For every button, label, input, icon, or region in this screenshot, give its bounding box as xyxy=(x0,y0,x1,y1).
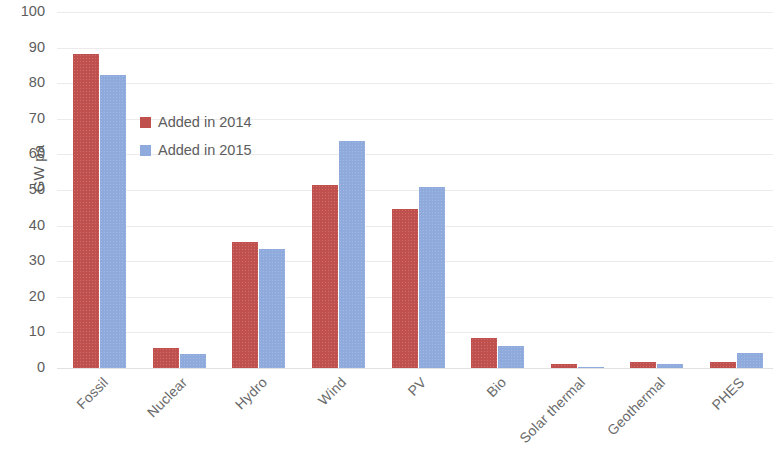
bar-group xyxy=(710,12,763,368)
bar xyxy=(419,187,445,368)
x-tick-label: PHES xyxy=(709,374,748,413)
bar-group xyxy=(392,12,445,368)
legend-item: Added in 2014 xyxy=(140,110,252,134)
bar xyxy=(232,242,258,368)
bar-group xyxy=(312,12,365,368)
x-tick-label: Hydro xyxy=(232,374,270,412)
bar-group xyxy=(551,12,604,368)
bar xyxy=(180,354,206,368)
y-tick-label: 40 xyxy=(0,217,45,233)
bar xyxy=(551,364,577,368)
y-tick-label: 100 xyxy=(0,3,45,19)
bar xyxy=(578,367,604,368)
bar xyxy=(737,353,763,368)
y-tick-label: 20 xyxy=(0,288,45,304)
bar-group xyxy=(630,12,683,368)
legend-label: Added in 2014 xyxy=(158,114,252,130)
legend-swatch-icon xyxy=(140,117,151,128)
x-tick-label: Wind xyxy=(315,374,349,408)
bar-group xyxy=(471,12,524,368)
bar xyxy=(312,185,338,368)
y-tick-label: 10 xyxy=(0,323,45,339)
chart-legend: Added in 2014Added in 2015 xyxy=(140,110,252,166)
gridline xyxy=(57,368,773,369)
legend-item: Added in 2015 xyxy=(140,138,252,162)
y-axis-title: GW pa xyxy=(30,109,47,229)
bar-chart: GW pa 0102030405060708090100 FossilNucle… xyxy=(0,0,778,455)
x-tick-label: Solar thermal xyxy=(516,374,588,446)
legend-label: Added in 2015 xyxy=(158,142,252,158)
bar xyxy=(630,362,656,368)
y-tick-label: 60 xyxy=(0,145,45,161)
plot-area: 0102030405060708090100 xyxy=(57,12,773,368)
y-tick-label: 30 xyxy=(0,252,45,268)
bar xyxy=(73,54,99,368)
bar xyxy=(100,75,126,368)
y-tick-label: 80 xyxy=(0,74,45,90)
bar xyxy=(153,348,179,368)
bar xyxy=(392,209,418,368)
x-tick-label: Geothermal xyxy=(604,374,668,438)
bar xyxy=(498,346,524,368)
bar xyxy=(471,338,497,368)
bar-group xyxy=(73,12,126,368)
x-tick-label: Nuclear xyxy=(144,374,190,420)
x-tick-label: PV xyxy=(405,374,430,399)
bar xyxy=(710,362,736,368)
bar-group xyxy=(232,12,285,368)
y-tick-label: 90 xyxy=(0,39,45,55)
bar xyxy=(339,141,365,368)
x-tick-label: Bio xyxy=(483,374,509,400)
y-tick-label: 70 xyxy=(0,110,45,126)
y-tick-label: 0 xyxy=(0,359,45,375)
bar xyxy=(259,249,285,368)
x-tick-label: Fossil xyxy=(73,374,111,412)
y-tick-label: 50 xyxy=(0,181,45,197)
legend-swatch-icon xyxy=(140,145,151,156)
bar-group xyxy=(153,12,206,368)
bar xyxy=(657,364,683,368)
